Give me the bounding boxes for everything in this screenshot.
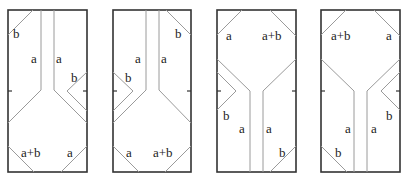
region-label: a (226, 28, 232, 43)
channel-left-line (217, 59, 250, 172)
region-label: a (135, 51, 141, 66)
region-label: a+b (331, 28, 351, 43)
region-label: b (335, 145, 342, 160)
region-label: b (13, 26, 20, 41)
panel-4: a+b a b a a b (321, 10, 400, 172)
channel-right-line (367, 59, 400, 172)
panel-1: b a a b a+b a (8, 10, 87, 172)
region-label: b (175, 26, 182, 41)
region-label: a (126, 145, 132, 160)
region-label: b (223, 108, 230, 123)
panel-frame (8, 10, 87, 172)
region-label: b (125, 70, 132, 85)
region-label: a (239, 121, 245, 136)
region-label: b (71, 70, 78, 85)
region-label: a (386, 28, 392, 43)
region-label: a+b (262, 28, 282, 43)
region-label: a (161, 51, 167, 66)
panel-3: a a+b b a a b (217, 10, 296, 172)
corner-cut-line (61, 146, 87, 172)
region-label: b (386, 108, 393, 123)
region-label: a (31, 51, 37, 66)
corner-cut-line (8, 10, 33, 35)
panel-2: b a a b a a+b (113, 10, 191, 172)
corner-cut-line (321, 146, 347, 172)
region-label: a+b (21, 145, 41, 160)
region-label: b (279, 145, 286, 160)
figure-canvas: b a a b a+b a b a a b a a+b a a+b (0, 0, 412, 187)
region-label: a (266, 121, 272, 136)
region-label: a (56, 51, 62, 66)
region-label: a+b (153, 145, 173, 160)
region-label: a (371, 121, 377, 136)
region-label: a (345, 121, 351, 136)
region-label: a (67, 145, 73, 160)
